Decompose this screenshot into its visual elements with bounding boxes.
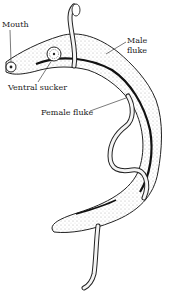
female-fluke-leader bbox=[90, 98, 126, 111]
label-ventral-sucker: Ventral sucker bbox=[8, 83, 67, 92]
label-female-fluke: Female fluke bbox=[41, 108, 93, 117]
label-male-fluke-2: fluke bbox=[127, 46, 147, 55]
male-fluke-body bbox=[6, 34, 162, 233]
mouth-leader bbox=[10, 30, 11, 62]
fluke-diagram: Mouth Male fluke Ventral sucker Female f… bbox=[0, 0, 179, 294]
label-male-fluke-1: Male bbox=[127, 36, 147, 45]
fluke-illustration bbox=[0, 0, 179, 294]
label-mouth: Mouth bbox=[2, 20, 29, 29]
